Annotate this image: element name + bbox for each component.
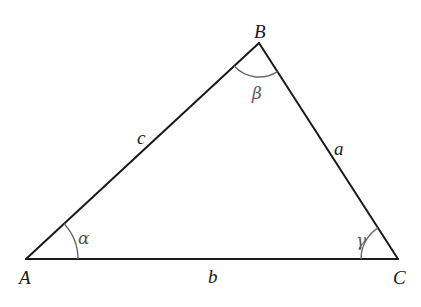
side-label-c: c [137, 127, 146, 148]
side-label-b: b [208, 266, 218, 287]
vertex-label-c: C [393, 267, 406, 288]
vertex-label-a: A [17, 267, 31, 288]
angle-arc-alpha [64, 224, 78, 259]
side-c [26, 43, 259, 259]
vertex-label-b: B [254, 21, 266, 42]
angle-label-alpha: α [78, 228, 90, 248]
side-label-a: a [334, 138, 344, 159]
triangle-diagram: A B C c a b α β γ [0, 0, 421, 307]
angle-arc-beta [234, 66, 277, 77]
side-a [259, 43, 398, 259]
angle-label-beta: β [251, 83, 262, 103]
angle-label-gamma: γ [356, 230, 367, 250]
